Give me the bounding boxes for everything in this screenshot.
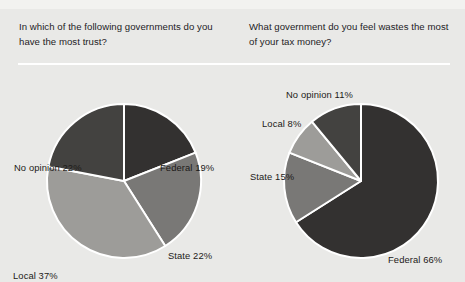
slice-label-federal-waste: Federal 66% <box>388 254 442 265</box>
slice-label-local-waste: Local 8% <box>262 118 301 129</box>
slice-label-no-opinion-trust: No opinion 22% <box>14 162 82 173</box>
pie-chart-figure: In which of the following governments do… <box>0 0 465 282</box>
slice-label-local-trust: Local 37% <box>13 270 58 281</box>
question-left: In which of the following governments do… <box>19 20 224 49</box>
cropped-text-bleed <box>0 0 465 9</box>
header-divider <box>18 63 450 65</box>
slice-label-federal-trust: Federal 19% <box>160 162 214 173</box>
slice-label-state-trust: State 22% <box>168 250 212 261</box>
slice-label-state-waste: State 15% <box>250 171 294 182</box>
pie-chart-waste: No opinion 11% Local 8% State 15% Federa… <box>232 70 465 282</box>
question-right: What government do you feel wastes the m… <box>249 20 459 49</box>
slice-label-no-opinion-waste: No opinion 11% <box>286 89 353 100</box>
pie-chart-trust: No opinion 22% Federal 19% State 22% Loc… <box>0 70 232 282</box>
